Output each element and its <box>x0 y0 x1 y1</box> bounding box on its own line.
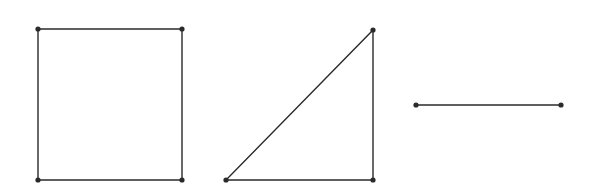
vertex-dot <box>413 102 418 107</box>
line-segment-shape <box>413 102 563 107</box>
diagram-canvas <box>0 0 593 194</box>
vertex-dot <box>179 177 184 182</box>
square-edges <box>38 29 182 180</box>
square-shape <box>35 26 184 182</box>
vertex-dot <box>370 177 375 182</box>
vertex-dot <box>370 27 375 32</box>
vertex-dot <box>558 102 563 107</box>
vertex-dot <box>35 177 40 182</box>
right-triangle-edges <box>226 30 373 180</box>
vertex-dot <box>223 177 228 182</box>
vertex-dot <box>35 26 40 31</box>
vertex-dot <box>179 26 184 31</box>
right-triangle-shape <box>223 27 375 182</box>
